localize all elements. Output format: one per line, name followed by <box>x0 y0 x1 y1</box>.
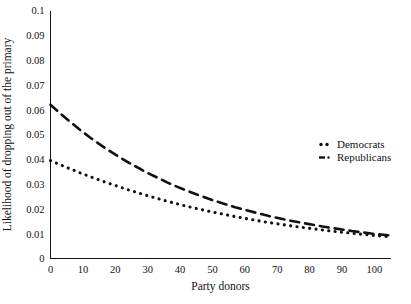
x-tick-label: 50 <box>207 264 218 275</box>
y-tick-label: 0.09 <box>26 30 44 41</box>
y-tick-label: 0.05 <box>26 129 44 140</box>
x-tick-label: 70 <box>272 264 283 275</box>
x-tick-label: 90 <box>337 264 348 275</box>
x-tick-label: 100 <box>366 264 382 275</box>
y-tick-label: 0.07 <box>26 80 44 91</box>
x-tick-label: 40 <box>175 264 186 275</box>
x-tick-label: 10 <box>78 264 89 275</box>
y-axis-title: Likelihood of dropping out of the primar… <box>1 37 14 231</box>
series-line-democrats <box>51 161 391 237</box>
likelihood-of-dropping-out-line-chart: 00.010.020.030.040.050.060.070.080.090.1… <box>0 0 411 304</box>
series-line-republicans <box>51 105 391 236</box>
legend-dot-marker <box>319 143 322 146</box>
x-tick-label: 0 <box>48 264 53 275</box>
chart-figure: 00.010.020.030.040.050.060.070.080.090.1… <box>0 0 411 304</box>
y-tick-label: 0.04 <box>26 154 45 165</box>
x-axis-title: Party donors <box>191 280 250 293</box>
x-tick-label: 30 <box>142 264 153 275</box>
y-tick-label: 0 <box>39 253 44 264</box>
x-tick-label: 20 <box>110 264 121 275</box>
legend-label-republicans: Republicans <box>337 151 391 163</box>
legend-dot-marker <box>327 156 329 158</box>
legend-dot-marker <box>325 143 328 146</box>
y-tick-label: 0.08 <box>26 55 44 66</box>
legend-label-democrats: Democrats <box>337 138 385 150</box>
x-tick-label: 60 <box>240 264 251 275</box>
x-tick-label: 80 <box>304 264 315 275</box>
y-tick-label: 0.02 <box>26 204 44 215</box>
y-tick-label: 0.01 <box>26 229 44 240</box>
y-tick-label: 0.06 <box>26 105 44 116</box>
y-tick-label: 0.1 <box>31 5 44 16</box>
y-tick-label: 0.03 <box>26 179 44 190</box>
